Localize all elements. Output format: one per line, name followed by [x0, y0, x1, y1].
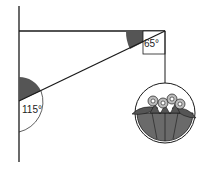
- bracket-diagram: [0, 0, 211, 171]
- top-angle-label: 65°: [144, 39, 159, 49]
- wall-angle-label: 115°: [22, 105, 42, 115]
- wall-angle-shade: [19, 77, 41, 101]
